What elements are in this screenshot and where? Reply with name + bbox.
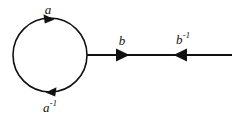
loop-circle bbox=[13, 18, 87, 92]
diagram-svg bbox=[0, 0, 242, 118]
label-loop-top-a-base: a bbox=[45, 2, 52, 17]
edge-right-arrowhead-b bbox=[116, 49, 130, 62]
label-edge-b-inverse: b-1 bbox=[176, 33, 190, 46]
loop-bottom-arrowhead bbox=[46, 87, 57, 96]
figure-canvas: a a-1 b b-1 bbox=[0, 0, 242, 118]
label-edge-b-base: b bbox=[119, 33, 126, 48]
label-loop-top-a: a bbox=[45, 3, 52, 16]
label-edge-b-inverse-exponent: -1 bbox=[183, 30, 190, 40]
label-loop-bottom-a-inverse: a-1 bbox=[43, 101, 57, 114]
label-loop-bottom-a-inverse-exponent: -1 bbox=[50, 98, 57, 108]
edge-left-arrowhead-b-inverse bbox=[174, 49, 188, 62]
label-edge-b-inverse-base: b bbox=[176, 32, 183, 47]
label-edge-b: b bbox=[119, 34, 126, 47]
label-loop-bottom-a-inverse-base: a bbox=[43, 100, 50, 115]
